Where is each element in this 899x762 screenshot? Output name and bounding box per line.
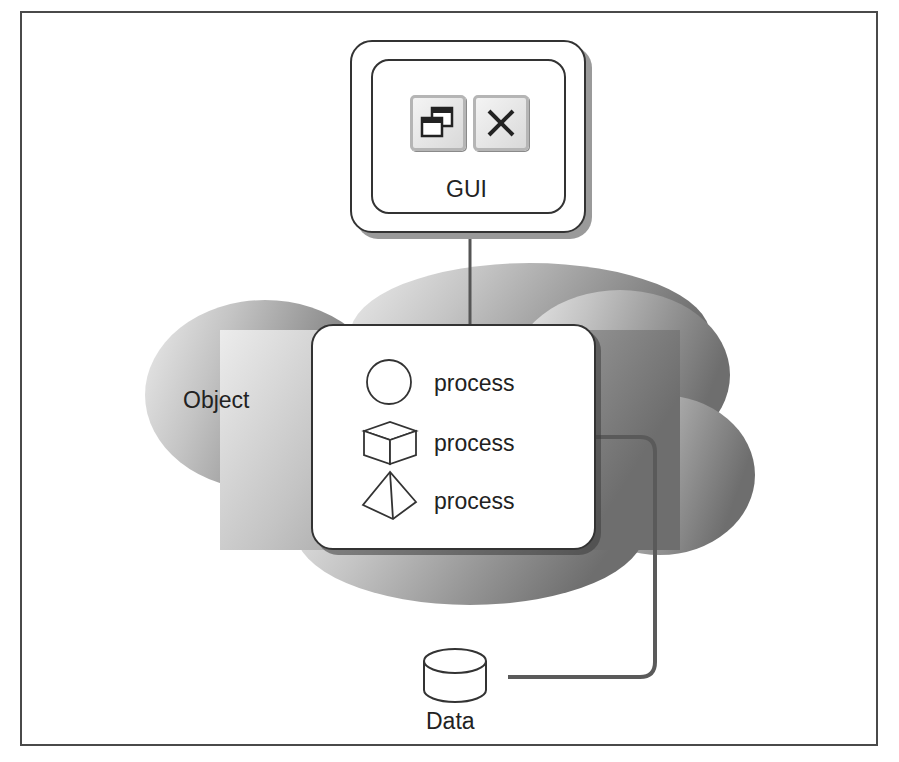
close-icon bbox=[476, 98, 526, 148]
cube-icon bbox=[364, 422, 416, 464]
restore-window-icon bbox=[413, 98, 463, 148]
object-label: Object bbox=[183, 387, 249, 414]
pyramid-icon bbox=[363, 472, 416, 519]
gui-label: GUI bbox=[446, 176, 487, 203]
database-cylinder-icon bbox=[424, 649, 486, 702]
process-icons bbox=[360, 358, 420, 538]
process-label: process bbox=[434, 488, 515, 515]
process-label: process bbox=[434, 370, 515, 397]
restore-window-button[interactable] bbox=[410, 95, 466, 151]
process-label: process bbox=[434, 430, 515, 457]
data-label: Data bbox=[426, 708, 475, 735]
circle-icon bbox=[367, 360, 411, 404]
close-button[interactable] bbox=[473, 95, 529, 151]
